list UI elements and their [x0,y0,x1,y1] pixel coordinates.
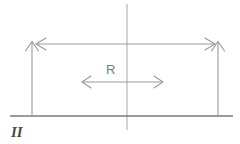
radius-dimension-arrow [82,76,163,88]
left-vertical-dimension-arrow [26,42,39,117]
radius-label: R [106,63,115,77]
region-label: II [11,124,23,140]
right-vertical-dimension-arrow [212,42,225,117]
top-width-dimension-arrow [36,38,215,50]
diagram-svg [0,0,240,144]
diagram-canvas: R II [0,0,240,144]
